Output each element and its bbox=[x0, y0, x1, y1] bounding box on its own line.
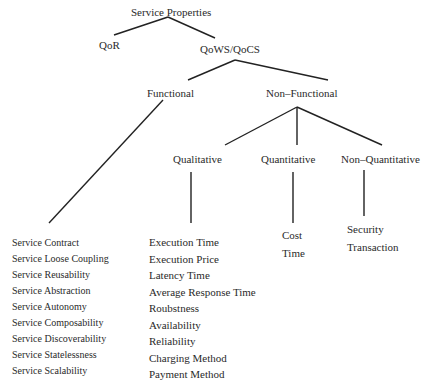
list-item: Service Reusability bbox=[12, 267, 109, 283]
list-item: Availability bbox=[149, 317, 256, 334]
list-item: Cost bbox=[282, 226, 305, 244]
list-item: Service Loose Coupling bbox=[12, 251, 109, 267]
list-item: Service Autonomy bbox=[12, 299, 109, 315]
list-item: Transaction bbox=[347, 238, 399, 256]
node-quantitative: Quantitative bbox=[261, 153, 315, 166]
list-item: Service Statelessness bbox=[12, 347, 109, 363]
list-quantitative: Cost Time bbox=[282, 226, 305, 262]
node-service-properties: Service Properties bbox=[131, 6, 211, 19]
list-qualitative: Execution Time Execution Price Latency T… bbox=[149, 234, 256, 383]
list-item: Service Abstraction bbox=[12, 283, 109, 299]
node-non-quantitative: Non–Quantitative bbox=[341, 153, 420, 166]
edge-root-qows bbox=[168, 17, 215, 38]
list-item: Charging Method bbox=[149, 350, 256, 367]
list-non-quantitative: Security Transaction bbox=[347, 220, 399, 256]
list-item: Security bbox=[347, 220, 399, 238]
edge-root-qor bbox=[114, 17, 168, 35]
list-functional: Service Contract Service Loose Coupling … bbox=[12, 235, 109, 379]
list-item: Execution Price bbox=[149, 251, 256, 268]
list-item: Service Scalability bbox=[12, 363, 109, 379]
node-qor: QoR bbox=[99, 39, 120, 52]
list-item: Payment Method bbox=[149, 366, 256, 383]
edge-nonfunctional-qualitative bbox=[225, 107, 297, 145]
list-item: Service Composability bbox=[12, 315, 109, 331]
list-item: Reliability bbox=[149, 333, 256, 350]
list-item: Service Discoverability bbox=[12, 331, 109, 347]
list-item: Average Response Time bbox=[149, 284, 256, 301]
list-item: Time bbox=[282, 244, 305, 262]
node-qualitative: Qualitative bbox=[173, 153, 222, 166]
list-item: Roubstness bbox=[149, 300, 256, 317]
list-item: Service Contract bbox=[12, 235, 109, 251]
node-non-functional: Non–Functional bbox=[266, 87, 338, 100]
edge-qows-nonfunctional bbox=[235, 60, 328, 80]
list-item: Latency Time bbox=[149, 267, 256, 284]
edge-functional-list bbox=[49, 100, 163, 223]
node-functional: Functional bbox=[147, 87, 194, 100]
node-qows-qocs: QoWS/QoCS bbox=[200, 43, 260, 56]
edge-qows-functional bbox=[188, 60, 235, 80]
service-properties-tree-diagram: Service Properties QoR QoWS/QoCS Functio… bbox=[0, 0, 436, 392]
edge-nonfunctional-nonquantitative bbox=[297, 107, 382, 145]
list-item: Execution Time bbox=[149, 234, 256, 251]
